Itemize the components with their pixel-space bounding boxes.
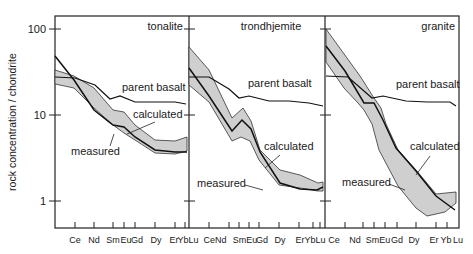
svg-text:Dy: Dy: [409, 235, 420, 245]
svg-text:parent basalt: parent basalt: [396, 78, 460, 90]
x-tick-labels: Ce Nd Sm Eu Gd Dy Er YbLu CeNd SmEu Gd D…: [69, 235, 463, 245]
svg-text:Nd: Nd: [88, 235, 100, 245]
svg-text:parent basalt: parent basalt: [122, 81, 186, 93]
svg-text:Ce: Ce: [328, 235, 340, 245]
panel-granite: parent basalt calculated measured: [326, 29, 460, 216]
svg-text:calculated: calculated: [410, 140, 460, 152]
svg-text:YbLu: YbLu: [177, 235, 198, 245]
svg-text:Gd: Gd: [131, 235, 143, 245]
measured-band: [189, 47, 323, 191]
svg-text:measured: measured: [197, 177, 246, 189]
panel-title-trondhjemite: trondhjemite: [241, 20, 302, 32]
x-ticks: [75, 222, 447, 228]
svg-text:Eu: Eu: [120, 235, 131, 245]
svg-text:Dy: Dy: [151, 235, 162, 245]
ytick-10: 10: [34, 109, 46, 121]
svg-text:measured: measured: [342, 176, 391, 188]
svg-text:Gd: Gd: [256, 235, 268, 245]
svg-text:Er: Er: [296, 235, 305, 245]
svg-text:Sm: Sm: [106, 235, 120, 245]
ytick-1: 1: [40, 195, 46, 207]
svg-text:CeNd: CeNd: [203, 235, 226, 245]
svg-text:Yb: Yb: [440, 235, 451, 245]
svg-text:SmEu: SmEu: [233, 235, 258, 245]
calculated-line: [55, 56, 187, 152]
svg-text:SmEu: SmEu: [366, 235, 391, 245]
svg-text:Nd: Nd: [349, 235, 361, 245]
panel-tonalite: parent basalt calculated measured: [55, 56, 187, 157]
svg-text:parent basalt: parent basalt: [248, 77, 312, 89]
panel-title-granite: granite: [421, 20, 455, 32]
svg-text:calculated: calculated: [133, 108, 183, 120]
y-axis-label: rock concentration / chondrite: [6, 53, 18, 191]
svg-text:Gd: Gd: [391, 235, 403, 245]
ytick-100: 100: [28, 23, 46, 35]
svg-text:Dy: Dy: [275, 235, 286, 245]
svg-text:YbLu: YbLu: [304, 235, 325, 245]
panel-trondhjemite: parent basalt calculated measured: [189, 47, 323, 191]
svg-text:measured: measured: [71, 145, 120, 157]
ree-chondrite-chart: 100 10 1 rock concentration / chondrite …: [0, 0, 473, 254]
svg-text:Ce: Ce: [69, 235, 81, 245]
svg-text:Lu: Lu: [453, 235, 463, 245]
svg-text:calculated: calculated: [264, 140, 314, 152]
panel-title-tonalite: tonalite: [148, 20, 183, 32]
svg-text:Er: Er: [430, 235, 439, 245]
